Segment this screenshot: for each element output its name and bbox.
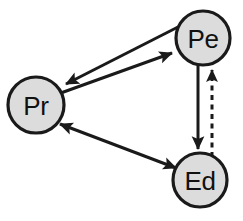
node-pe-label: Pe bbox=[187, 24, 218, 54]
node-pr[interactable]: Pr bbox=[8, 77, 64, 133]
node-ed-label: Ed bbox=[184, 166, 215, 196]
node-pr-label: Pr bbox=[23, 91, 49, 121]
diagram-canvas: Pe Pr Ed bbox=[0, 0, 243, 221]
node-pe[interactable]: Pe bbox=[176, 11, 230, 65]
node-link-diagram: Pe Pr Ed bbox=[0, 0, 243, 221]
edge-pr-ed-bidirectional bbox=[60, 124, 176, 168]
node-ed[interactable]: Ed bbox=[173, 153, 227, 207]
